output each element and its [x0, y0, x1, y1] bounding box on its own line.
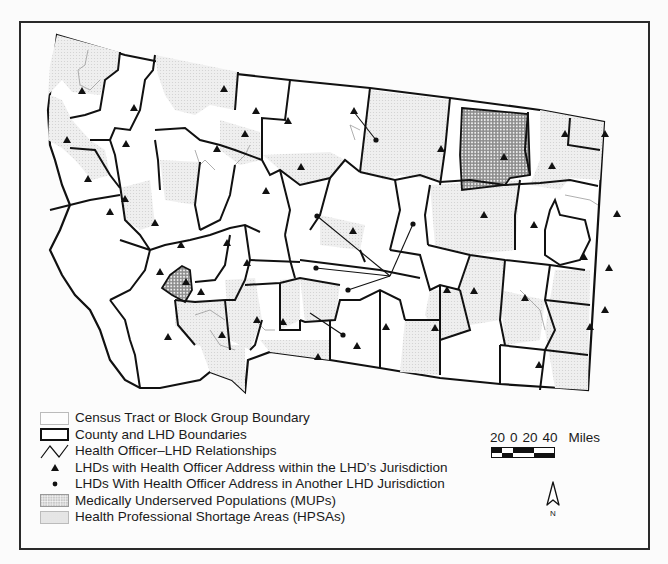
mup-pattern-icon — [40, 494, 69, 507]
north-arrow-icon — [545, 481, 561, 507]
legend-item-mup: Medically Underserved Populations (MUPs) — [40, 493, 447, 510]
dot-marker — [340, 332, 345, 337]
scale-tick: 20 — [523, 430, 538, 445]
legend-label: LHDs with Health Officer Address within … — [75, 460, 447, 476]
legend-item-relationships: Health Officer–LHD Relationships — [40, 443, 447, 460]
dot-marker — [373, 137, 378, 142]
triangle-marker — [605, 264, 613, 271]
scale-labels: 2002040Miles — [490, 430, 605, 445]
thin-rectangle-icon — [40, 412, 69, 425]
triangle-marker — [601, 306, 609, 313]
legend-label: LHDs With Health Officer Address in Anot… — [75, 476, 445, 492]
legend-item-dot: LHDs With Health Officer Address in Anot… — [40, 476, 447, 493]
dot-marker — [345, 287, 350, 292]
north-label: N — [543, 509, 563, 518]
legend-label: Health Professional Shortage Areas (HPSA… — [75, 509, 345, 525]
scale-bar-graphic — [491, 447, 561, 459]
dot-icon — [40, 478, 69, 491]
scale-tick: 40 — [543, 430, 558, 445]
legend-item-county-boundaries: County and LHD Boundaries — [40, 427, 447, 444]
legend-label: Health Officer–LHD Relationships — [75, 443, 277, 459]
zigzag-line-icon — [40, 445, 69, 458]
hpsa-pattern-icon — [40, 511, 69, 524]
dot-marker — [314, 213, 319, 218]
legend-item-hpsa: Health Professional Shortage Areas (HPSA… — [40, 509, 447, 526]
legend-label: Census Tract or Block Group Boundary — [75, 410, 310, 426]
thick-rectangle-icon — [40, 428, 69, 441]
legend-label: County and LHD Boundaries — [75, 427, 247, 443]
north-arrow: N — [543, 481, 563, 518]
triangle-marker — [613, 210, 621, 217]
scale-tick: 20 — [490, 430, 505, 445]
map-legend: Census Tract or Block Group Boundary Cou… — [40, 410, 447, 526]
scale-bar: 2002040Miles — [490, 430, 605, 459]
dot-marker — [313, 265, 318, 270]
scale-unit: Miles — [569, 430, 601, 445]
legend-label: Medically Underserved Populations (MUPs) — [75, 493, 336, 509]
triangle-icon — [40, 461, 69, 474]
scale-tick: 0 — [510, 430, 518, 445]
legend-item-census-tract: Census Tract or Block Group Boundary — [40, 410, 447, 427]
legend-item-triangle: LHDs with Health Officer Address within … — [40, 460, 447, 477]
dot-marker — [410, 221, 415, 226]
